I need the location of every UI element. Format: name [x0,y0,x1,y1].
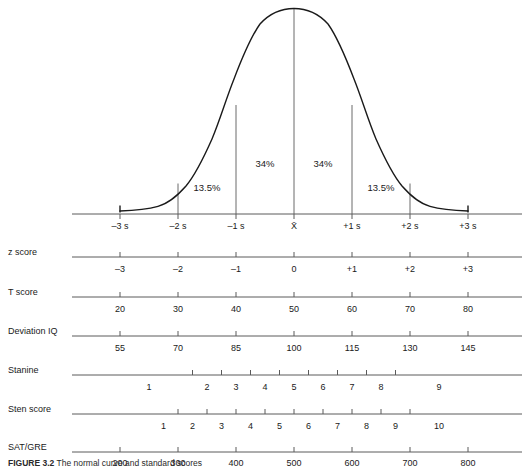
stanine-ticks [193,370,396,375]
area-pct-plus1-to-plus2: 13.5% [368,182,395,193]
deviation-iq-tick-label-3: 100 [286,343,301,353]
scale-row-z-score: z score –3 –2 –1 0 +1 +2 +3 [8,247,522,274]
scale-row-sten-score: Sten score 1 2 3 4 5 6 7 8 9 10 [8,404,522,431]
z-score-tick-label-1: –2 [173,264,183,274]
deviation-iq-tick-label-0: 55 [115,343,125,353]
t-score-tick-label-1: 30 [173,304,183,314]
z-score-tick-label-6: +3 [463,264,473,274]
baseline-tick-label-mean: X̄ [291,221,297,231]
baseline-tick-label-6: +3 s [459,221,477,231]
area-pct-minus2-to-minus1: 13.5% [194,182,221,193]
figure-caption-label: FIGURE 3.2 [8,458,54,468]
baseline-tick-label-0: –3 s [111,221,129,231]
t-score-tick-label-0: 20 [115,304,125,314]
scale-label-z-score: z score [8,247,37,257]
scale-label-t-score: T score [8,287,38,297]
baseline-tick-label-2: –1 s [227,221,245,231]
deviation-iq-tick-label-6: 145 [460,343,475,353]
z-score-tick-label-4: +1 [347,264,357,274]
z-score-tick-label-5: +2 [405,264,415,274]
z-score-tick-label-2: –1 [231,264,241,274]
t-score-tick-label-2: 40 [231,304,241,314]
stanine-value-label-6: 6 [320,382,325,392]
stanine-value-label-8: 8 [378,382,383,392]
area-pct-mean-to-plus1: 34% [313,158,333,169]
stanine-value-label-2: 2 [204,382,209,392]
sten-score-value-label-9: 9 [393,421,398,431]
scale-row-stanine: Stanine 1 2 3 4 5 6 7 8 9 [8,365,522,392]
scale-label-sten-score: Sten score [8,404,51,414]
sat-gre-ticks [120,447,468,452]
t-score-tick-label-3: 50 [289,304,299,314]
sten-score-value-label-10: 10 [434,421,444,431]
t-score-tick-label-6: 80 [463,304,473,314]
stanine-value-label-5: 5 [291,382,296,392]
scale-row-t-score: T score 20 30 40 50 60 70 80 [8,287,522,314]
figure-caption: FIGURE 3.2 The normal curve and standard… [0,458,528,469]
scale-label-deviation-iq: Deviation IQ [8,326,58,336]
sten-score-value-label-4: 4 [248,421,253,431]
deviation-iq-ticks [120,331,468,336]
scale-row-deviation-iq: Deviation IQ 55 70 85 100 115 130 145 [8,326,522,353]
curve-area: 13.5% 34% 34% 13.5% [120,9,468,215]
z-score-tick-label-3: 0 [291,264,296,274]
scale-label-sat-gre: SAT/GRE [8,442,47,452]
distribution-chart-svg: 13.5% 34% 34% 13.5% –3 s –2 s –1 s X̄ +1… [0,0,528,469]
baseline-tick-label-1: –2 s [169,221,187,231]
sten-score-value-label-3: 3 [219,421,224,431]
sten-score-ticks [178,409,410,414]
t-score-tick-label-5: 70 [405,304,415,314]
t-score-ticks [120,292,468,297]
sten-score-value-label-8: 8 [364,421,369,431]
deviation-iq-tick-label-5: 130 [402,343,417,353]
baseline-tick-label-5: +2 s [401,221,419,231]
deviation-iq-tick-label-4: 115 [345,343,359,353]
sten-score-value-label-5: 5 [277,421,282,431]
z-score-tick-label-0: –3 [115,264,125,274]
stanine-value-label-3: 3 [233,382,238,392]
sten-score-value-label-7: 7 [335,421,340,431]
stanine-value-label-9: 9 [436,382,441,392]
sten-score-value-label-1: 1 [161,421,166,431]
deviation-iq-tick-label-2: 85 [231,343,241,353]
baseline-ticks [120,214,468,219]
scale-label-stanine: Stanine [8,365,39,375]
stanine-value-label-1: 1 [146,382,151,392]
stanine-value-label-4: 4 [262,382,267,392]
normal-curve-figure: 13.5% 34% 34% 13.5% –3 s –2 s –1 s X̄ +1… [0,0,528,469]
sten-score-value-label-6: 6 [306,421,311,431]
scale-row-baseline: –3 s –2 s –1 s X̄ +1 s +2 s +3 s [72,214,522,231]
sten-score-value-label-2: 2 [190,421,195,431]
stanine-value-label-7: 7 [349,382,354,392]
baseline-tick-label-4: +1 s [343,221,361,231]
deviation-iq-tick-label-1: 70 [173,343,183,353]
figure-caption-text: The normal curve and standard scores [57,458,203,468]
z-score-ticks [120,252,468,257]
area-pct-minus1-to-mean: 34% [255,158,275,169]
t-score-tick-label-4: 60 [347,304,357,314]
